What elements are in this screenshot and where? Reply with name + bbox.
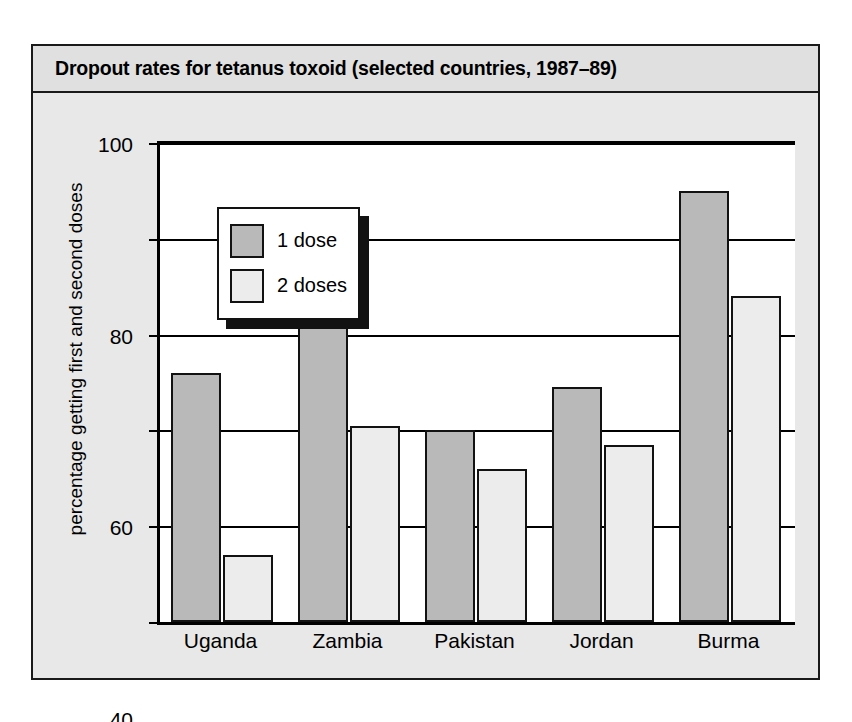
chart-body: percentage getting first and second dose… (33, 93, 818, 678)
y-axis-tick-label: 80 (110, 325, 133, 349)
legend: 1 dose 2 doses (217, 207, 360, 320)
legend-swatch-2-doses (230, 269, 264, 303)
bar-burma-1-dose (679, 191, 729, 622)
legend-swatch-1-dose (230, 224, 264, 258)
legend-item: 2 doses (230, 263, 358, 308)
bar-zambia-2-doses (350, 426, 400, 622)
legend-label-1-dose: 1 dose (277, 229, 337, 252)
y-axis-tick: 60 (149, 335, 160, 337)
gridline (160, 622, 795, 624)
legend-box: 1 dose 2 doses (217, 207, 360, 320)
y-axis-tick: 20 (149, 526, 160, 528)
legend-item: 1 dose (230, 218, 358, 263)
chart-title-bar: Dropout rates for tetanus toxoid (select… (33, 46, 818, 93)
bar-uganda-1-dose (171, 373, 221, 622)
bar-burma-2-doses (731, 296, 781, 622)
bar-zambia-1-dose (298, 325, 348, 622)
bar-pakistan-2-doses (477, 469, 527, 622)
x-axis-label-jordan: Jordan (569, 629, 633, 653)
y-axis-tick-label: 60 (110, 516, 133, 540)
y-axis-tick: 100 (149, 143, 160, 145)
x-axis-label-zambia: Zambia (312, 629, 382, 653)
y-axis-label: percentage getting first and second dose… (65, 149, 87, 569)
y-axis-tick-label: 40 (110, 708, 133, 722)
legend-label-2-doses: 2 doses (277, 274, 347, 297)
x-axis-label-uganda: Uganda (184, 629, 258, 653)
y-axis-tick-label: 100 (98, 133, 133, 157)
x-axis-labels: UgandaZambiaPakistanJordanBurma (157, 629, 792, 669)
bar-pakistan-1-dose (425, 430, 475, 622)
bar-uganda-2-doses (223, 555, 273, 622)
y-axis-tick: 80 (149, 239, 160, 241)
bar-jordan-2-doses (604, 445, 654, 622)
y-axis-tick: 0 (149, 622, 160, 624)
x-axis-label-burma: Burma (698, 629, 760, 653)
page-title: Dropout rates for tetanus toxoid (select… (33, 57, 617, 80)
chart-figure: Dropout rates for tetanus toxoid (select… (31, 44, 820, 680)
bar-jordan-1-dose (552, 387, 602, 622)
x-axis-label-pakistan: Pakistan (434, 629, 515, 653)
y-axis-tick: 40 (149, 430, 160, 432)
